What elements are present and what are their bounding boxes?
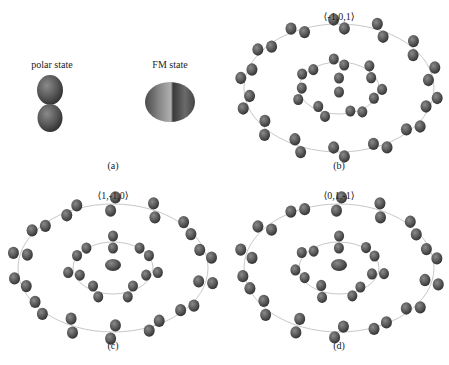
orbital-lobe [411,228,422,240]
orbital-lobe [309,245,319,256]
orbital-lobe [289,133,300,145]
panel-c-caption: (c) [107,340,118,351]
polar-state-label: polar state [31,59,72,70]
orbital-lobe [238,102,249,114]
orbital-lobe [401,302,412,314]
orbital-lobe [367,268,377,279]
polar-state-orbital [37,75,63,132]
orbital-lobe [316,280,326,291]
orbital-lobe [67,326,78,338]
orbital-lobe [405,216,416,228]
orbital-lobe [252,43,263,55]
panel-d-caption: (d) [333,340,345,351]
orbital-lobe [66,313,77,325]
orbital-lobe [194,244,205,256]
orbital-lobe [207,277,218,289]
orbital-lobe [9,272,20,284]
orbital-lobe [244,90,255,102]
orbital-lobe [105,204,116,216]
fm-state-label: FM state [152,59,187,70]
orbital-lobe [259,115,270,127]
orbital-lobe [366,72,376,83]
orbital-lobe [364,60,374,71]
center-orbital [331,259,347,271]
orbital-lobe [432,92,443,104]
orbital-lobe [22,248,33,260]
panel-d-title: ⟨0,1,-1⟩ [323,190,354,201]
orbital-lobe [297,247,307,258]
orbital-lobe [419,274,430,286]
orbital-lobe [433,278,444,290]
orbital-lobe [88,280,98,291]
orbital-lobe [423,74,434,86]
orbital-lobe [75,270,85,281]
orbital-lobe [110,319,121,331]
orbital-lobe [297,68,307,79]
panel-b-title: ⟨-1,0,1⟩ [323,11,354,22]
orbital-lobe [144,250,154,261]
orbital-lobe [317,292,327,303]
orbital-lobe [334,242,344,253]
orbital-lobe [295,146,306,158]
orbital-lobe [61,209,72,221]
panel-a-caption: (a) [107,160,118,171]
orbital-lobe [299,26,310,38]
figure-canvas [0,0,449,365]
orbital-lobe [421,243,432,255]
orbital-lobe [259,129,270,141]
orbital-lobe [153,267,163,278]
orbital-lobe [193,275,204,287]
orbital-lobe [108,242,118,253]
orbital-lobe [30,296,41,308]
orbital-lobe [339,22,350,34]
panel-d [235,191,444,343]
orbital-lobe [408,49,419,61]
orbital-lobe [141,270,151,281]
orbital-lobe [334,86,344,97]
orbital-lobe [27,224,38,236]
orbital-lobe [308,64,318,75]
orbital-lobe [135,242,145,253]
orbital-lobe [8,247,19,259]
orbital-lobe [372,18,383,30]
orbital-lobe [71,199,82,211]
orbital-lobe [378,31,389,43]
orbital-lobe [206,251,217,263]
orbital-lobe [347,290,357,301]
orbital-dumbbell [334,72,344,97]
orbital-lobe [415,301,426,313]
orbital-lobe [258,295,269,307]
orbital-lobe [188,300,199,312]
orbital-lobe [123,291,133,302]
orbital-lobe [21,280,32,292]
orbital-lobe [40,220,51,232]
orbital-lobe [290,326,301,338]
orbital-lobe [290,264,300,275]
orbital-lobe [185,228,196,240]
orbital-lobe [334,230,344,241]
orbital-lobe [175,304,186,316]
orbital-lobe [108,230,118,241]
orbital-lobe [285,22,296,34]
orbital-lobe [252,220,263,232]
orbital-lobe [379,268,389,279]
orbital-lobe [338,320,349,332]
orbital-lobe [421,100,432,112]
orbital-lobe [368,138,379,150]
orbital-lobe [300,272,310,283]
orbital-lobe [408,35,419,47]
orbital-lobe [235,243,246,255]
orbital-lobe [334,72,344,83]
panel-a [37,75,195,132]
orbital-lobe [331,204,342,216]
orbital-lobe [401,123,412,135]
orbital-lobe [235,72,246,84]
orbital-lobe [294,313,305,325]
orbital-lobe [72,250,82,261]
orbital-lobe [37,308,48,320]
orbital-lobe [154,315,165,327]
orbital-lobe [369,93,379,104]
panel-c [8,191,218,344]
orbital-lobe [81,242,91,253]
orbital-lobe [382,141,393,153]
